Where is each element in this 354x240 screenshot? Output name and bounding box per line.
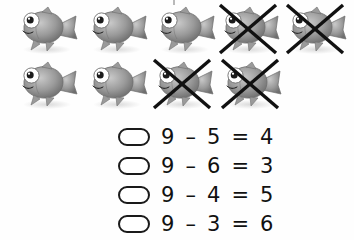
worksheet-page: 9 – 5 = 4 9 – 6 = 3 9 – 4 = 5 9 – 3 = 6 <box>0 0 354 240</box>
fish-icon <box>84 5 150 55</box>
answer-choices: 9 – 5 = 4 9 – 6 = 3 9 – 4 = 5 9 – 3 = 6 <box>0 120 354 240</box>
fish-icon <box>216 5 282 55</box>
fish-row-2 <box>0 58 354 113</box>
fish-item <box>218 58 284 113</box>
equation-c: 9 – 4 = 5 <box>161 185 276 206</box>
fish-row-1 <box>0 3 354 58</box>
equation-a: 9 – 5 = 4 <box>161 127 276 148</box>
fish-picture-model <box>0 0 354 118</box>
fish-item <box>150 58 216 113</box>
answer-choice-b[interactable]: 9 – 6 = 3 <box>118 151 276 181</box>
fish-item <box>14 58 80 113</box>
fish-item <box>283 3 349 58</box>
answer-bubble-b[interactable] <box>118 157 150 175</box>
fish-item <box>14 3 80 58</box>
answer-bubble-d[interactable] <box>118 215 150 233</box>
fish-icon <box>84 60 150 110</box>
answer-choice-c[interactable]: 9 – 4 = 5 <box>118 180 276 210</box>
fish-item <box>84 58 150 113</box>
fish-icon <box>14 60 80 110</box>
fish-icon <box>14 5 80 55</box>
fish-icon <box>283 5 349 55</box>
fish-item <box>152 3 218 58</box>
equation-d: 9 – 3 = 6 <box>161 214 276 235</box>
answer-bubble-a[interactable] <box>118 128 150 146</box>
fish-item <box>84 3 150 58</box>
fish-icon <box>150 60 216 110</box>
answer-choice-a[interactable]: 9 – 5 = 4 <box>118 122 276 152</box>
equation-b: 9 – 6 = 3 <box>161 156 276 177</box>
fish-icon <box>152 5 218 55</box>
answer-choice-d[interactable]: 9 – 3 = 6 <box>118 209 276 239</box>
fish-item <box>216 3 282 58</box>
fish-icon <box>218 60 284 110</box>
answer-bubble-c[interactable] <box>118 186 150 204</box>
